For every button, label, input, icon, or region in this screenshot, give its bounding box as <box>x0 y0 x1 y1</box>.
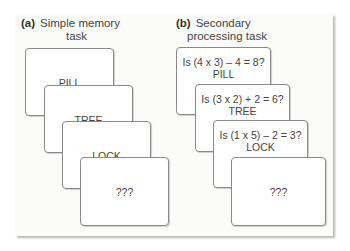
card-word: PILL <box>177 68 270 80</box>
card-question: Is (1 x 5) – 2 = 3? <box>214 129 307 141</box>
card-word: TREE <box>196 105 289 117</box>
panel-b-heading: (b)Secondary processing task <box>176 17 267 43</box>
processing-card-recall: ??? <box>231 157 326 226</box>
panel-b-title-line2: processing task <box>176 30 267 43</box>
panel-a-title-line1: Simple memory <box>40 17 120 29</box>
card-word: ??? <box>81 186 168 198</box>
card-word: LOCK <box>214 141 307 153</box>
memory-card-recall: ??? <box>80 157 169 226</box>
card-question: Is (4 x 3) – 4 = 8? <box>177 56 270 68</box>
card-word: ??? <box>232 186 325 198</box>
panel-a-tag: (a) <box>21 17 35 29</box>
panel-a-title-line2: task <box>21 30 120 43</box>
panel-b-title-line1: Secondary <box>196 17 251 29</box>
card-question: Is (3 x 2) + 2 = 6? <box>196 93 289 105</box>
panel-a-heading: (a)Simple memory task <box>21 17 120 43</box>
panel-b-tag: (b) <box>176 17 191 29</box>
